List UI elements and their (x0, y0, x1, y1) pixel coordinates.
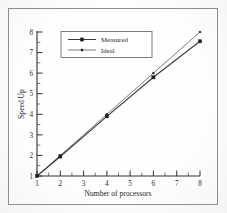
y-axis-ticks (37, 32, 43, 176)
y-tick-label: 1 (29, 173, 33, 181)
series-ideal-marker (152, 72, 154, 74)
series-measured-marker (152, 76, 155, 79)
y-tick-labels: 1 2 3 4 5 6 7 8 (29, 29, 33, 181)
x-axis-ticks (37, 171, 200, 176)
y-tick-label: 8 (29, 29, 33, 37)
series-measured-marker (59, 155, 62, 158)
x-tick-label: 4 (105, 180, 109, 188)
series-measured-marker (35, 174, 38, 177)
y-axis-title: Speed Up (17, 89, 26, 119)
x-axis-title: Number of processors (84, 189, 151, 198)
legend-marker-measured (80, 38, 83, 41)
x-tick-label: 7 (175, 180, 179, 188)
figure-container: 1 2 3 4 5 6 7 8 1 2 3 4 5 6 7 8 Number o… (0, 0, 227, 213)
x-tick-label: 6 (152, 180, 156, 188)
x-tick-label: 5 (128, 180, 132, 188)
x-tick-labels: 1 2 3 4 5 6 7 8 (35, 180, 202, 188)
series-measured (35, 40, 201, 178)
y-tick-label: 7 (29, 49, 33, 57)
x-tick-label: 1 (35, 180, 39, 188)
x-tick-label: 3 (82, 180, 86, 188)
y-tick-label: 4 (29, 111, 33, 119)
y-tick-label: 5 (29, 90, 33, 98)
x-tick-label: 8 (198, 180, 202, 188)
y-tick-label: 2 (29, 152, 33, 160)
chart-legend: Measured Ideal (61, 32, 152, 58)
y-tick-label: 3 (29, 132, 33, 140)
series-measured-marker (105, 115, 108, 118)
legend-label-ideal: Ideal (101, 47, 115, 54)
legend-marker-ideal (81, 49, 83, 51)
x-tick-label: 2 (59, 180, 63, 188)
legend-label-measured: Measured (101, 36, 128, 43)
series-ideal-marker (199, 31, 201, 33)
y-tick-label: 6 (29, 70, 33, 78)
speedup-line-chart: 1 2 3 4 5 6 7 8 1 2 3 4 5 6 7 8 Number o… (0, 0, 227, 213)
series-measured-marker (198, 40, 201, 43)
